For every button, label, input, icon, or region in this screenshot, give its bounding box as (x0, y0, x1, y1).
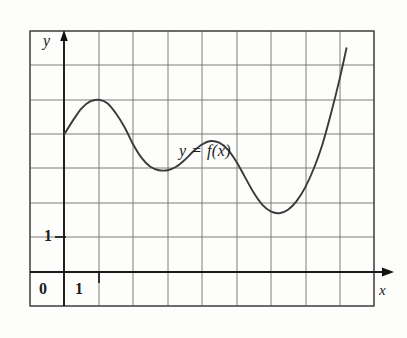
curve-equation-label: y = f(x) (179, 143, 231, 159)
origin-label: 0 (39, 281, 47, 297)
x-axis-label: x (379, 283, 386, 298)
x-tick-label-one: 1 (75, 281, 83, 297)
y-tick-label-one: 1 (44, 228, 52, 244)
y-axis-label: y (43, 33, 50, 49)
graph-canvas (0, 0, 407, 338)
graph-figure: y x 0 1 1 y = f(x) (0, 0, 407, 338)
